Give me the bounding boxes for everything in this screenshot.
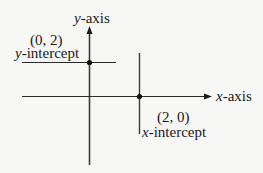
coordinate-plane [0,0,263,173]
y-intercept-label: y-intercept [15,46,79,61]
y-axis-label-var: y [74,10,81,26]
x-intercept-label-var: x [142,124,149,140]
y-axis-label: y-axis [74,11,110,26]
x-intercept-label-rest: -intercept [149,124,206,140]
x-intercept-point [137,94,142,99]
x-axis-label: x-axis [216,89,252,104]
x-intercept-coord-label: (2, 0) [157,110,190,125]
y-intercept-point [87,60,92,65]
x-axis-label-rest: -axis [223,88,252,104]
x-axis-label-var: x [216,88,223,104]
y-intercept-label-var: y [15,45,22,61]
y-axis-label-rest: -axis [81,10,110,26]
y-intercept-label-rest: -intercept [22,45,79,61]
y-axis-arrow-icon [87,26,93,34]
x-axis-arrow-icon [204,94,212,100]
x-intercept-label: x-intercept [142,125,206,140]
